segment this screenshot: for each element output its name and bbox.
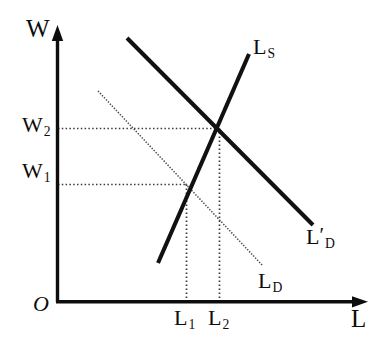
curve-label-demand-original: LD bbox=[258, 270, 281, 292]
curve-label-supply-subscript: S bbox=[267, 46, 275, 61]
x-tick-label-l1-base: L bbox=[174, 305, 187, 330]
y-tick-label-w2: W2 bbox=[22, 114, 50, 136]
curve-label-supply: LS bbox=[253, 36, 274, 58]
y-tick-label-w2-base: W bbox=[22, 112, 43, 137]
supply-demand-figure bbox=[0, 0, 384, 350]
x-tick-label-l2-subscript: 2 bbox=[222, 317, 229, 332]
origin-label: O bbox=[33, 293, 49, 315]
y-axis-title: W bbox=[26, 16, 50, 41]
y-tick-label-w1: W1 bbox=[22, 160, 50, 182]
y-tick-label-w2-subscript: 2 bbox=[44, 124, 51, 139]
y-tick-label-w1-base: W bbox=[22, 158, 43, 183]
x-tick-label-l2-base: L bbox=[208, 305, 221, 330]
y-axis-title-text: W bbox=[26, 15, 50, 42]
curve-label-demand-shifted-prime: ′ bbox=[319, 223, 324, 247]
curve-label-demand-original-base: L bbox=[258, 268, 271, 293]
y-tick-label-w1-subscript: 1 bbox=[44, 170, 51, 185]
axes bbox=[52, 25, 368, 307]
curve-demand-original bbox=[98, 91, 263, 266]
x-axis-title-text: L bbox=[351, 305, 366, 332]
x-axis-title: L bbox=[351, 306, 366, 331]
origin-label-text: O bbox=[33, 291, 49, 316]
x-tick-label-l1: L1 bbox=[174, 307, 194, 329]
guide-lines bbox=[58, 129, 220, 302]
curve-label-supply-base: L bbox=[253, 34, 266, 59]
curve-label-demand-original-subscript: D bbox=[272, 280, 282, 295]
curve-label-demand-shifted: L′D bbox=[306, 226, 334, 248]
curve-label-demand-shifted-base: L bbox=[306, 224, 319, 249]
curve-label-demand-shifted-subscript: D bbox=[325, 236, 335, 251]
y-axis-arrowhead bbox=[52, 25, 63, 41]
x-tick-label-l1-subscript: 1 bbox=[188, 317, 195, 332]
x-tick-label-l2: L2 bbox=[208, 307, 228, 329]
diagram-canvas: W L O W2 W1 L1 L2 LS LD L′D bbox=[0, 0, 384, 350]
